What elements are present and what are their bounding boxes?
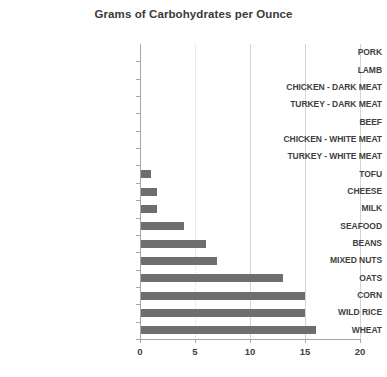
category-tick [136,322,140,323]
category-label: CHICKEN - WHITE MEAT [254,134,387,144]
bar-chart: Grams of Carbohydrates per Ounce PORKLAM… [0,0,387,377]
category-tick [136,61,140,62]
value-tick-20 [360,339,361,343]
value-tick-0 [140,339,141,343]
category-label: BEEF [254,117,387,127]
category-label: WHEAT [254,325,387,335]
value-axis-line [140,44,141,340]
category-tick [136,165,140,166]
category-label: BEANS [254,238,387,248]
category-tick [136,252,140,253]
bar [140,170,151,178]
category-tick [136,270,140,271]
category-label: MIXED NUTS [254,255,387,265]
bar [140,240,206,248]
category-label: CHICKEN - DARK MEAT [254,82,387,92]
category-label: TURKEY - DARK MEAT [254,99,387,109]
category-tick [136,79,140,80]
value-tick-label-20: 20 [345,346,375,357]
value-tick-label-10: 10 [235,346,265,357]
value-tick-15 [305,339,306,343]
category-tick [136,96,140,97]
category-tick [136,148,140,149]
category-tick [136,113,140,114]
bar [140,222,184,230]
category-tick [136,131,140,132]
category-label: WILD RICE [254,307,387,317]
category-label: LAMB [254,65,387,75]
category-label: MILK [254,203,387,213]
category-label: CORN [254,290,387,300]
bar [140,257,217,265]
bar [140,205,157,213]
value-tick-5 [195,339,196,343]
category-label: SEAFOOD [254,221,387,231]
chart-title: Grams of Carbohydrates per Ounce [0,8,387,20]
value-tick-label-5: 5 [180,346,210,357]
category-tick [136,218,140,219]
category-label: CHEESE [254,186,387,196]
value-tick-10 [250,339,251,343]
category-label: TURKEY - WHITE MEAT [254,151,387,161]
category-tick [136,287,140,288]
category-tick [136,183,140,184]
category-tick [136,200,140,201]
category-tick [136,304,140,305]
category-label: PORK [254,47,387,57]
category-label: OATS [254,273,387,283]
category-label: TOFU [254,169,387,179]
bar [140,188,157,196]
category-tick [136,235,140,236]
value-tick-label-15: 15 [290,346,320,357]
value-tick-label-0: 0 [125,346,155,357]
